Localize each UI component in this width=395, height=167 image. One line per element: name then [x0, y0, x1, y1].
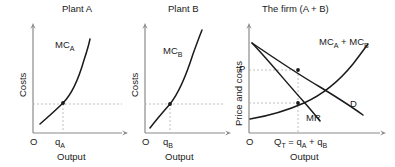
- origin-label-f: O: [246, 137, 253, 147]
- origin-label-a: O: [30, 137, 37, 147]
- curve-label-demand: D: [350, 99, 357, 109]
- x-axis-label-a: Output: [57, 152, 86, 162]
- quantity-label-b: qB: [163, 137, 173, 149]
- curve-demand: [252, 43, 363, 115]
- curve-label-summed-mc-plus: + MC: [338, 36, 364, 47]
- price-label-f: P: [239, 64, 245, 74]
- panel-title-plant-a: Plant A: [62, 4, 92, 14]
- origin-label-b: O: [142, 137, 149, 147]
- panel-plant-a: Plant A Costs MCA O qA Output: [0, 0, 132, 167]
- curve-label-summed-mc: MCA + MCB: [319, 37, 369, 49]
- panel-title-the-firm: The firm (A + B): [262, 4, 329, 14]
- equilibrium-dot-a: [61, 101, 65, 105]
- y-axis-label-b: Costs: [130, 73, 140, 97]
- quantity-label-f-expr: = q: [286, 136, 302, 147]
- panel-title-plant-b: Plant B: [168, 4, 199, 14]
- panel-plant-b: Plant B Costs MCB O qB Output: [118, 0, 238, 167]
- curve-label-mc-b: MCB: [163, 46, 182, 58]
- curve-label-summed-mc-sub-b: B: [364, 42, 369, 49]
- quantity-label-f-sub-b: B: [323, 142, 328, 149]
- curve-label-mc-a: MCA: [55, 40, 74, 52]
- curve-label-mc-a-text: MC: [55, 39, 70, 50]
- curve-label-mc-b-sub: B: [178, 51, 183, 58]
- quantity-label-f-mid: + q: [306, 136, 322, 147]
- x-axis-label-b: Output: [165, 152, 194, 162]
- quantity-label-b-sub: B: [168, 142, 173, 149]
- curve-label-summed-mc-text: MC: [319, 36, 334, 47]
- quantity-label-f: QT = qA + qB: [274, 137, 327, 149]
- quantity-label-a: qA: [55, 137, 65, 149]
- figure-root: Plant A Costs MCA O qA Output Plant B Co…: [0, 0, 395, 167]
- quantity-label-a-sub: A: [60, 142, 65, 149]
- equilibrium-dot-b: [168, 102, 172, 106]
- curve-label-mc-a-sub: A: [70, 45, 75, 52]
- curve-label-mc-b-text: MC: [163, 45, 178, 56]
- x-axis-label-f: Output: [290, 152, 319, 162]
- x-axis-arrow-f: [380, 130, 386, 135]
- panel-the-firm: The firm (A + B) Price and costs P MCA +…: [222, 0, 395, 167]
- curve-label-marginal-revenue: MR: [306, 113, 321, 123]
- y-axis-label-a: Costs: [18, 73, 28, 97]
- price-point-dot: [296, 68, 300, 72]
- equilibrium-dot-f: [296, 101, 300, 105]
